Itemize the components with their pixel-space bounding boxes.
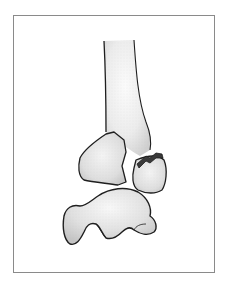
- fracture-fragment-left: [79, 132, 126, 185]
- fracture-illustration: [0, 0, 229, 289]
- lower-bone: [63, 189, 156, 245]
